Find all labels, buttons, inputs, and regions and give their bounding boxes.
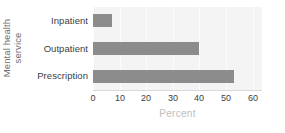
bar-outpatient	[93, 42, 199, 55]
bar-chart-figure: Mental health service InpatientOutpatien…	[0, 0, 285, 133]
x-tick-label-60: 60	[248, 93, 258, 104]
plot-area	[93, 7, 262, 90]
x-tick-label-30: 30	[168, 93, 178, 104]
x-axis: 0102030405060	[93, 90, 262, 110]
category-axis: InpatientOutpatientPrescription	[24, 7, 92, 90]
y-axis-title-line-1: Mental health	[1, 18, 12, 76]
x-axis-line	[93, 90, 262, 91]
gridline-x-60	[253, 7, 254, 90]
bar-inpatient	[93, 14, 112, 27]
y-axis-title: Mental health service	[0, 0, 24, 95]
x-axis-title: Percent	[93, 108, 262, 120]
x-tick-label-50: 50	[221, 93, 231, 104]
category-label-outpatient: Outpatient	[44, 42, 88, 56]
x-tick-label-40: 40	[194, 93, 204, 104]
y-axis-title-line-2: service	[12, 18, 23, 76]
x-tick-label-0: 0	[90, 93, 95, 104]
x-tick-label-20: 20	[141, 93, 151, 104]
x-tick-label-10: 10	[115, 93, 125, 104]
category-label-inpatient: Inpatient	[51, 14, 88, 28]
category-label-prescription: Prescription	[37, 69, 88, 83]
bar-prescription	[93, 70, 234, 83]
